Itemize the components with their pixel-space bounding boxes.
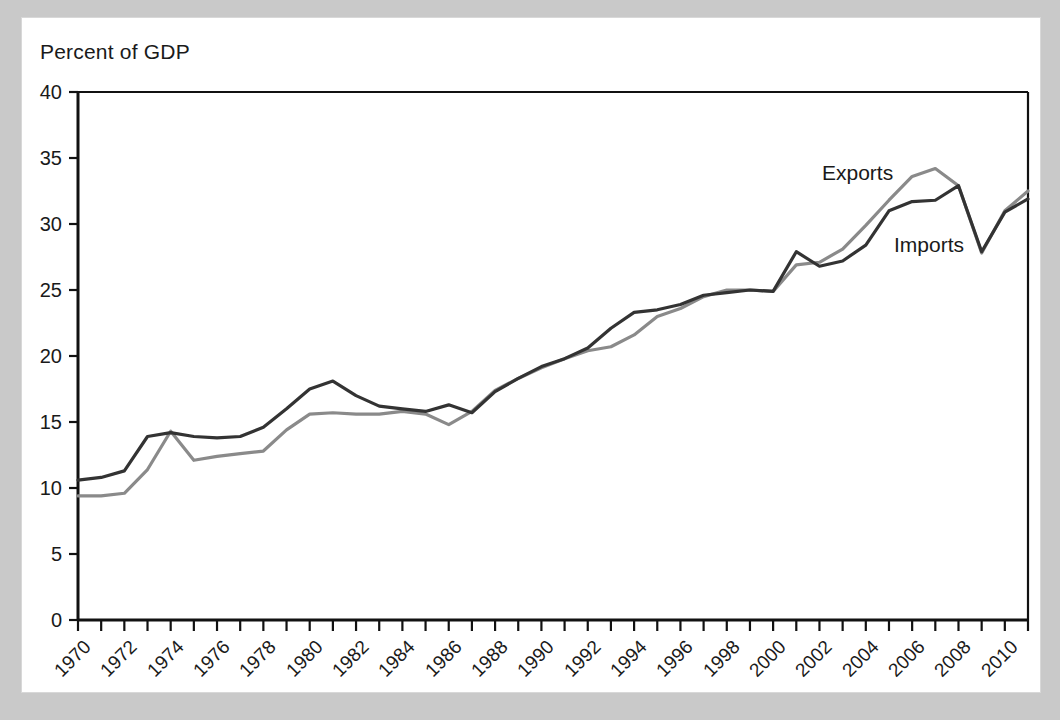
- axes-layer: [69, 92, 1028, 631]
- y-tick-label: 40: [20, 81, 62, 104]
- chart-panel: Percent of GDP Exports Imports 051015202…: [22, 18, 1040, 692]
- y-tick-label: 30: [20, 213, 62, 236]
- y-tick-label: 5: [20, 543, 62, 566]
- y-tick-label: 25: [20, 279, 62, 302]
- y-tick-label: 35: [20, 147, 62, 170]
- y-tick-label: 0: [20, 609, 62, 632]
- line-chart-plot: [22, 18, 1040, 692]
- y-tick-label: 20: [20, 345, 62, 368]
- series-layer: [78, 169, 1028, 496]
- y-tick-label: 10: [20, 477, 62, 500]
- series-line-imports: [78, 186, 1028, 480]
- figure-root: Percent of GDP Exports Imports 051015202…: [0, 0, 1060, 720]
- y-tick-label: 15: [20, 411, 62, 434]
